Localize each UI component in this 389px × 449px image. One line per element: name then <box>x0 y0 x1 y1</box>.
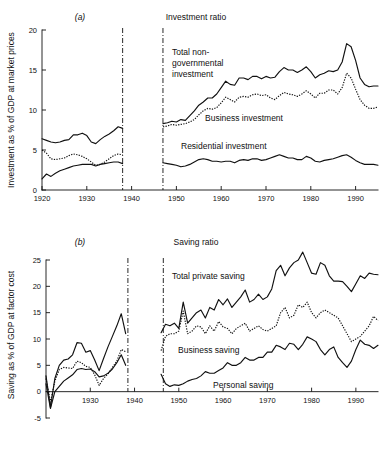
x-tick-label: 1940 <box>126 396 143 405</box>
investment-ratio-chart: 0510152019201930194019501960197019801990 <box>0 0 389 224</box>
series-group-b <box>46 252 378 408</box>
y-tick-label: 20 <box>29 26 37 35</box>
y-tick-label: 10 <box>29 106 37 115</box>
series-group-a <box>42 44 378 179</box>
y-tick-label: -5 <box>34 414 41 423</box>
series-line-total-non-governmental-investment <box>42 127 123 144</box>
series-line-personal-saving <box>161 337 378 387</box>
y-tick-label: 5 <box>33 146 37 155</box>
y-tick-label: 20 <box>33 282 41 291</box>
x-tick-label: 1980 <box>302 194 319 203</box>
x-tick-label: 1950 <box>168 194 185 203</box>
x-tick-label: 1970 <box>259 396 276 405</box>
series-line-business-saving <box>161 302 378 350</box>
x-tick-label: 1960 <box>215 396 232 405</box>
y-tick-label: 15 <box>33 308 41 317</box>
panel-saving-ratio: -505101520251930194019501960197019801990… <box>0 225 389 449</box>
y-tick-label: 10 <box>33 335 41 344</box>
series-line-residential-investment <box>42 162 123 179</box>
series-line-business-investment <box>163 73 378 127</box>
tick-labels-a: 0510152019201930194019501960197019801990 <box>29 26 364 203</box>
x-tick-label: 1990 <box>347 194 364 203</box>
x-tick-label: 1980 <box>303 396 320 405</box>
series-line-residential-investment <box>163 155 378 167</box>
x-tick-label: 1930 <box>78 194 95 203</box>
tick-labels-b: -505101520251930194019501960197019801990 <box>33 256 365 423</box>
figure-container: 0510152019201930194019501960197019801990… <box>0 0 389 449</box>
x-tick-label: 1920 <box>34 194 51 203</box>
saving-ratio-chart: -505101520251930194019501960197019801990 <box>0 225 389 449</box>
x-tick-label: 1930 <box>82 396 99 405</box>
series-line-business-saving <box>46 350 126 403</box>
x-tick-label: 1960 <box>213 194 230 203</box>
x-tick-label: 1970 <box>258 194 275 203</box>
y-tick-label: 5 <box>37 361 41 370</box>
series-line-total-private-saving <box>46 314 126 408</box>
x-tick-label: 1950 <box>170 396 187 405</box>
y-tick-label: 25 <box>33 256 41 265</box>
series-line-total-private-saving <box>161 252 378 333</box>
x-tick-label: 1940 <box>123 194 140 203</box>
y-tick-label: 15 <box>29 66 37 75</box>
series-line-total-non-governmental-investment <box>163 44 378 124</box>
x-tick-label: 1990 <box>348 396 365 405</box>
axes-group-b <box>46 258 378 418</box>
y-tick-label: 0 <box>37 387 41 396</box>
panel-investment-ratio: 0510152019201930194019501960197019801990… <box>0 0 389 224</box>
